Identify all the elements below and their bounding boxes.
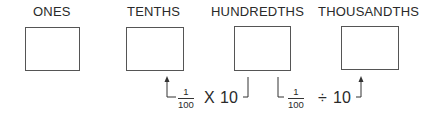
fraction-one-hundredth-1: 1 100 [178,87,194,110]
fraction-numerator: 1 [291,87,300,97]
connector-from-hundredths-left [243,77,248,97]
divide-operand: 10 [333,89,351,107]
divide-operator: ÷ [318,89,327,107]
fraction-denominator: 100 [178,100,194,110]
connector-from-hundredths-right [278,77,284,97]
multiply-operator: X [204,89,215,107]
fraction-one-hundredth-2: 1 100 [288,87,304,110]
multiply-operand: 10 [220,89,238,107]
arrow-up-to-thousandths-icon [356,76,364,97]
fraction-denominator: 100 [288,100,304,110]
arrow-up-to-tenths-icon [165,76,177,97]
fraction-numerator: 1 [181,87,190,97]
